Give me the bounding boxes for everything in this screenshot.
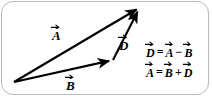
arrow-overbar-icon [165,41,173,46]
equation-sum-equals: = [154,65,165,80]
equation-difference-equals: = [155,45,166,60]
vector-b-arrow [14,61,109,82]
vector-label-b: B [66,76,75,92]
equation-sum: A = B + D [146,62,208,82]
arrow-overbar-icon [65,74,74,79]
vector-label-d: D [119,36,128,52]
equation-sum-operator: + [173,65,184,80]
vector-label-d-text: D [119,38,128,53]
arrow-overbar-icon [183,41,191,46]
equation-sum-rhs-1: B [165,66,173,80]
equation-difference-rhs-2: B [184,46,192,60]
vector-label-a: A [52,26,61,42]
arrow-overbar-icon [183,61,192,66]
equation-sum-rhs-2: D [184,66,193,80]
equation-difference-rhs-1: A [166,46,174,60]
equation-sum-lhs: A [146,66,154,80]
vector-label-a-text: A [52,28,61,43]
arrow-overbar-icon [118,34,127,39]
arrow-overbar-icon [51,24,60,29]
vector-diagram-figure: A B D D = [0,0,212,98]
arrow-overbar-icon [145,61,153,66]
equation-list: D = A − B A [146,42,208,82]
arrow-overbar-icon [145,41,154,46]
equation-difference-operator: − [174,45,185,60]
arrow-overbar-icon [164,61,172,66]
equation-difference-lhs: D [146,46,155,60]
vector-label-b-text: B [66,78,75,93]
equation-difference: D = A − B [146,42,208,62]
